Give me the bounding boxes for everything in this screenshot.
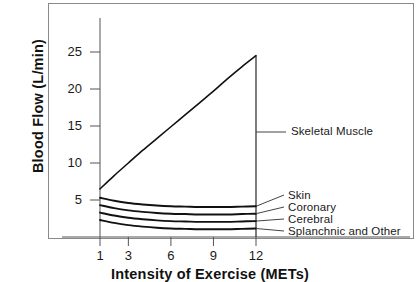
- x-axis-ticks: [100, 237, 256, 246]
- series-label-splanchnic-and-other: Splanchnic and Other: [288, 225, 401, 237]
- y-tick-label: 10: [56, 155, 82, 170]
- y-tick-label: 25: [56, 44, 82, 59]
- x-tick-label: 1: [89, 248, 111, 263]
- x-tick-label: 9: [202, 248, 224, 263]
- series-line-skin: [100, 198, 256, 207]
- y-tick-label: 15: [56, 118, 82, 133]
- y-tick-label: 20: [56, 81, 82, 96]
- series-label-cerebral: Cerebral: [288, 213, 333, 225]
- series-label-coronary: Coronary: [288, 201, 336, 213]
- x-tick-label: 3: [117, 248, 139, 263]
- x-tick-label: 12: [245, 248, 267, 263]
- series-label-skeletal-muscle: Skeletal Muscle: [291, 125, 373, 137]
- series-label-skin: Skin: [288, 189, 311, 201]
- leader-line-cerebral: [256, 219, 284, 221]
- y-axis-ticks: [90, 52, 100, 200]
- leader-line-skin: [256, 195, 284, 206]
- x-tick-label: 6: [160, 248, 182, 263]
- series-line-skeletal-muscle: [100, 56, 256, 189]
- leader-line-splanchnic-and-other: [256, 228, 284, 231]
- data-series-lines: [100, 56, 256, 237]
- leader-line-coronary: [256, 207, 284, 214]
- label-leader-lines: [256, 132, 286, 231]
- y-tick-label: 5: [56, 192, 82, 207]
